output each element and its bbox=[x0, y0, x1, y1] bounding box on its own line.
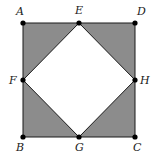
point-D-label: D bbox=[136, 5, 146, 18]
point-C-marker bbox=[132, 134, 137, 139]
point-E-marker bbox=[76, 20, 81, 25]
point-G-label: G bbox=[75, 141, 84, 154]
point-F-marker bbox=[20, 77, 25, 82]
point-B-marker bbox=[20, 134, 25, 139]
geometry-diagram: AEDFHBGC bbox=[0, 0, 155, 158]
point-H-marker bbox=[132, 77, 137, 82]
point-A-label: A bbox=[15, 5, 24, 18]
point-C-label: C bbox=[133, 141, 142, 154]
point-B-label: B bbox=[15, 141, 24, 154]
point-F-label: F bbox=[8, 74, 17, 87]
point-E-label: E bbox=[74, 4, 83, 17]
point-D-marker bbox=[132, 20, 137, 25]
point-A-marker bbox=[20, 20, 25, 25]
point-G-marker bbox=[76, 134, 81, 139]
point-H-label: H bbox=[139, 74, 150, 87]
